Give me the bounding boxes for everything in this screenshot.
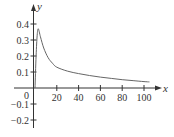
x-tick-label: 80 xyxy=(117,92,127,103)
x-tick-label: 40 xyxy=(74,92,84,103)
chart: 204060801000.40.30.20.10−0.1−0.2 x y xyxy=(0,0,174,137)
y-tick-label: 0.3 xyxy=(17,35,30,46)
x-axis-arrow-icon xyxy=(155,86,162,91)
data-curve xyxy=(35,29,149,88)
x-tick-label: 100 xyxy=(137,92,152,103)
y-tick-label: 0.1 xyxy=(17,67,30,78)
y-tick-label: 0.2 xyxy=(17,51,30,62)
x-axis-label: x xyxy=(162,82,168,94)
y-tick-label: −0.2 xyxy=(11,115,29,126)
x-tick-label: 20 xyxy=(52,92,62,103)
y-tick-label: 0.4 xyxy=(17,19,30,30)
y-axis-label: y xyxy=(36,0,42,12)
ticks xyxy=(31,24,145,120)
y-tick-label: −0.1 xyxy=(11,99,29,110)
x-tick-label: 60 xyxy=(95,92,105,103)
y-axis-arrow-icon xyxy=(31,4,36,11)
